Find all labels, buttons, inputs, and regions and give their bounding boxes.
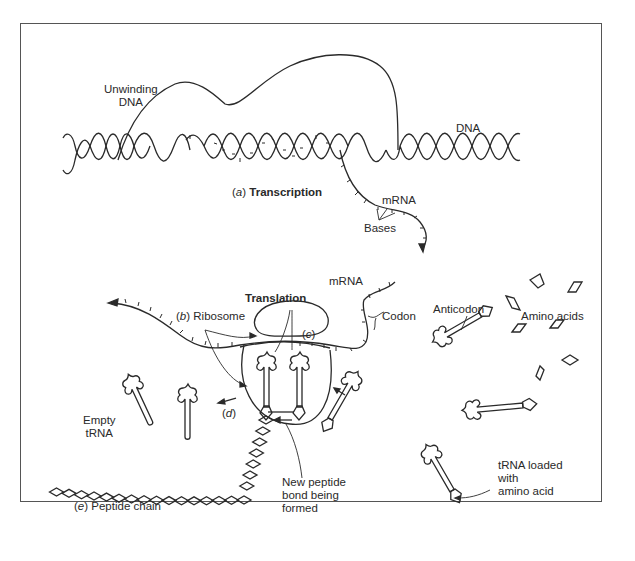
label-empty: Empty <box>83 414 116 427</box>
peptide-amino-acid <box>253 438 267 446</box>
label-dna: DNA <box>456 122 480 135</box>
ribosome-arrowhead-1 <box>250 333 256 338</box>
trna-in-ribosome-2 <box>290 352 310 420</box>
label-formed: formed <box>282 502 346 515</box>
label-trna-loaded: tRNA loaded with amino acid <box>498 459 563 498</box>
trna-in-ribosome-1 <box>257 352 277 420</box>
label-mrna-translation: mRNA <box>329 275 363 288</box>
trna-horizontal <box>461 395 537 421</box>
label-anticodon: Anticodon <box>433 303 484 316</box>
label-trna-loaded-line1: tRNA loaded <box>498 459 563 472</box>
dna-unwound-strand <box>134 133 190 161</box>
new-bond-pointer <box>286 424 302 478</box>
mrna-left-arrow <box>108 299 118 306</box>
peptide-amino-acid <box>87 492 101 500</box>
label-peptide-chain-letter: e <box>78 500 84 512</box>
label-transcription-letter: a <box>236 186 242 198</box>
mrna-arrow-tip <box>419 244 425 252</box>
label-ribosome: (b) Ribosome <box>176 310 245 323</box>
label-translation: Translation <box>245 292 306 305</box>
peptide-amino-acid <box>249 449 263 457</box>
peptide-amino-acid <box>243 471 257 479</box>
label-new-peptide-bond: New peptide bond being formed <box>282 476 346 515</box>
trna-departing <box>178 384 198 439</box>
label-trna-loaded-line2: with <box>498 472 563 485</box>
peptide-bond-arrowhead <box>274 417 280 423</box>
trna-empty <box>119 370 160 428</box>
label-d: (d) <box>222 407 236 420</box>
dna-helix-middle <box>186 133 386 161</box>
trna-loaded-arrowhead <box>455 496 460 500</box>
peptide-amino-acid <box>256 427 270 435</box>
label-trna-loaded-line3: amino acid <box>498 485 563 498</box>
label-empty-trna: Empty tRNA <box>83 414 116 440</box>
label-ribosome-letter: b <box>180 310 186 322</box>
label-c: (c) <box>302 328 315 341</box>
ribosome-arrowhead-2 <box>240 382 246 387</box>
label-transcription-text: Transcription <box>249 186 322 198</box>
label-transcription: (a) Transcription <box>232 186 322 199</box>
peptide-amino-acid <box>246 460 260 468</box>
label-unwinding: Unwinding <box>104 83 158 96</box>
label-mrna-transcription: mRNA <box>382 194 416 207</box>
incoming-arrowhead <box>334 388 340 393</box>
departing-arrowhead <box>218 399 225 404</box>
label-trna: tRNA <box>83 427 116 440</box>
label-codon: Codon <box>382 310 416 323</box>
trna-incoming <box>315 366 366 436</box>
label-peptide-chain: (e) Peptide chain <box>74 500 161 513</box>
amino-acid-diamonds <box>506 274 582 380</box>
label-ribosome-text: Ribosome <box>193 310 245 322</box>
trna-loaded-pointer <box>458 490 490 498</box>
peptide-amino-acid <box>50 488 64 496</box>
peptide-amino-acid <box>75 491 89 499</box>
label-bond-being: bond being <box>282 489 346 502</box>
ribosome-small-subunit <box>255 301 329 336</box>
label-bases: Bases <box>364 222 396 235</box>
peptide-amino-acid <box>240 482 254 490</box>
dna-helix-right <box>386 133 520 160</box>
label-peptide-chain-text: Peptide chain <box>91 500 161 512</box>
label-unwinding-dna: Unwinding DNA <box>104 83 158 109</box>
peptide-amino-acid <box>62 489 76 497</box>
label-c-letter: c <box>306 328 312 340</box>
label-amino-acids: Amino acids <box>521 310 584 323</box>
label-d-letter: d <box>226 407 232 419</box>
label-new-peptide: New peptide <box>282 476 346 489</box>
label-unwinding-dna-word: DNA <box>104 96 158 109</box>
